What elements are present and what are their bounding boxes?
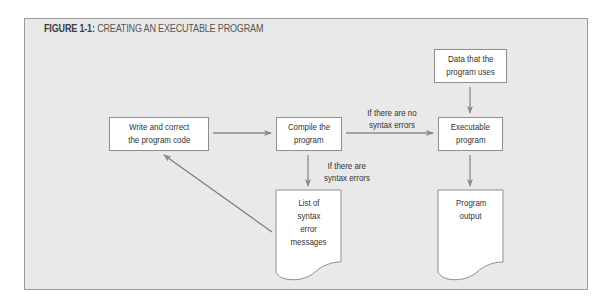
compile-line2: program — [294, 134, 323, 147]
executable-line1: Executable — [451, 121, 490, 134]
output-line2: output — [460, 210, 482, 223]
executable-box: Executable program — [438, 117, 503, 151]
has-errors-line2: syntax errors — [324, 172, 370, 184]
errors-document-text: List of syntax error messages — [276, 197, 342, 249]
errors-line3: error — [301, 223, 318, 236]
has-errors-label: If there are syntax errors — [316, 160, 378, 184]
no-errors-line1: If there are no — [367, 107, 416, 119]
data-line2: program uses — [446, 66, 494, 79]
no-errors-label: If there are no syntax errors — [352, 107, 432, 131]
output-document-text: Program output — [438, 197, 504, 223]
errors-line4: messages — [291, 236, 327, 249]
compile-box: Compile the program — [276, 117, 342, 151]
figure-canvas: FIGURE 1-1: CREATING AN EXECUTABLE PROGR… — [0, 0, 612, 307]
connectors — [0, 0, 612, 307]
write-code-line1: Write and correct — [129, 121, 189, 134]
compile-line1: Compile the — [288, 121, 330, 134]
executable-line2: program — [456, 134, 485, 147]
has-errors-line1: If there are — [328, 160, 366, 172]
no-errors-line2: syntax errors — [369, 119, 415, 131]
data-line1: Data that the — [448, 53, 493, 66]
arrow-errors-to-write — [164, 155, 272, 232]
errors-line2: syntax — [298, 210, 321, 223]
write-code-box: Write and correct the program code — [109, 117, 209, 151]
output-line1: Program — [456, 197, 486, 210]
errors-line1: List of — [298, 197, 319, 210]
write-code-line2: the program code — [128, 134, 190, 147]
data-box: Data that the program uses — [434, 49, 507, 83]
